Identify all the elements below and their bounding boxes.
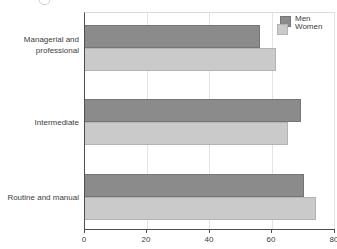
bar-women-intermediate [85,122,288,145]
axis-tick-60 [271,229,272,233]
legend: Men Women [275,13,335,41]
category-label-routine: Routine and manual [0,192,79,203]
gridline-80 [334,13,335,229]
x-tick-label-20: 20 [142,235,151,244]
cropped-text-fragment [39,0,50,5]
x-tick-label-0: 0 [82,235,86,244]
bar-chart: Managerial and professional Intermediate… [0,0,337,249]
legend-label-women: Women [295,23,322,31]
bar-men-intermediate [85,99,301,122]
axis-tick-0 [84,229,85,233]
legend-swatch-women-icon [277,24,288,35]
bar-men-routine [85,174,304,197]
category-label-managerial: Managerial and professional [0,34,79,56]
x-tick-label-60: 60 [267,235,276,244]
plot-area [84,12,335,230]
bar-women-routine [85,197,316,220]
axis-tick-80 [334,229,335,233]
axis-tick-40 [209,229,210,233]
x-tick-label-40: 40 [205,235,214,244]
category-label-intermediate: Intermediate [0,117,79,128]
bar-men-managerial [85,25,260,48]
x-tick-label-80: 80 [330,235,337,244]
bar-women-managerial [85,48,276,71]
legend-labels: Men Women [295,15,322,32]
axis-tick-20 [146,229,147,233]
